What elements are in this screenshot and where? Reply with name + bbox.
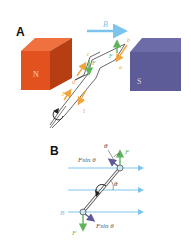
component-label-bottom: Fsin θ [95,222,114,230]
rotation-icon-a [50,106,66,128]
angle-label-top: θ [104,142,108,150]
south-magnet: S [130,38,181,91]
field-lines-b [68,168,142,212]
field-arrow-a: B [87,20,123,31]
angle-label-center: θ [114,180,118,188]
field-label-b: B [60,209,65,217]
field-label-a: B [103,20,108,29]
corner-label-c: c [87,51,90,57]
force-label-b-bottom: F [71,229,77,237]
force-arrows-a [89,42,117,73]
north-magnet: N [21,38,72,90]
current-label-2: I [82,108,86,114]
force-label-a1: F [91,60,96,66]
component-label-top: Fsin θ [77,156,96,164]
south-label: S [137,77,141,86]
corner-label-a: a [119,64,122,70]
force-label-a2: F [108,53,113,59]
diagram-canvas: N S B F F b a c d I I [0,0,191,249]
corner-label-b: b [127,37,130,43]
force-label-b-top: F [124,148,130,156]
current-label-1: I [61,91,65,97]
current-arrows [64,45,127,103]
north-label: N [33,70,39,79]
